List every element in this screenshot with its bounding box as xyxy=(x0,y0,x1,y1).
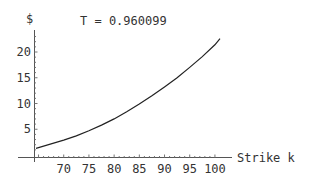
x-tick-label: 75 xyxy=(82,163,96,175)
x-tick-label: 80 xyxy=(107,163,121,175)
y-tick-label: 10 xyxy=(17,98,31,110)
x-tick-label: 95 xyxy=(183,163,197,175)
y-tick-label: 20 xyxy=(17,46,31,58)
x-tick-label: 100 xyxy=(204,163,226,175)
y-axis-label: $ xyxy=(26,13,33,25)
y-tick-label: 5 xyxy=(24,123,31,135)
chart-title: T = 0.960099 xyxy=(80,15,167,27)
x-tick-label: 85 xyxy=(132,163,146,175)
x-axis-label: Strike k xyxy=(237,152,295,164)
y-tick-label: 15 xyxy=(17,72,31,84)
price-curve xyxy=(36,39,220,149)
x-tick-label: 90 xyxy=(157,163,171,175)
x-tick-label: 70 xyxy=(57,163,71,175)
